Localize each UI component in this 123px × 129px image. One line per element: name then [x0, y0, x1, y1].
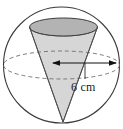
sphere-cone-diagram [0, 0, 123, 129]
cone-top-face [30, 18, 98, 36]
geometry-figure: 6 cm [0, 0, 123, 129]
dimension-arrowhead-right [109, 60, 117, 66]
cone-body [30, 27, 98, 122]
dimension-label: 6 cm [71, 80, 95, 94]
